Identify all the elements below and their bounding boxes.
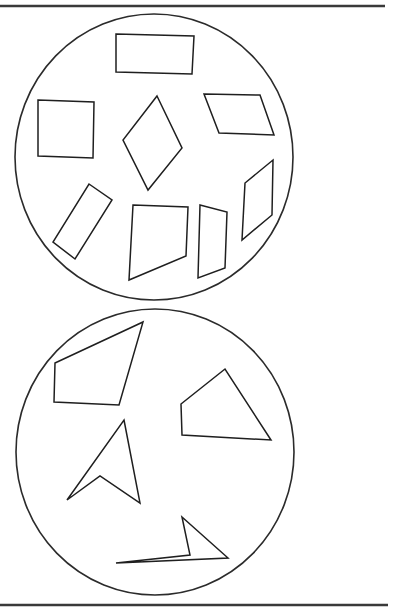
bottom-circle [16,309,294,595]
irregular-quadrilateral-left-shape [54,322,143,405]
trapezoid-narrow-shape [198,205,227,278]
bottom-circle-group [16,309,294,595]
shapes-diagram [0,0,394,609]
irregular-quadrilateral-right-shape [181,369,271,440]
rectangle-shape [116,34,194,74]
trapezoid-wide-shape [129,205,188,280]
top-circle-group [15,14,293,300]
concave-arrowhead-shape [67,420,140,503]
square-shape [38,100,94,158]
concave-sliver-shape [116,517,228,563]
parallelogram-vertical-shape [242,160,273,240]
parallelogram-horizontal-shape [204,94,274,135]
tilted-rectangle-shape [53,184,112,259]
rhombus-shape [123,96,182,190]
